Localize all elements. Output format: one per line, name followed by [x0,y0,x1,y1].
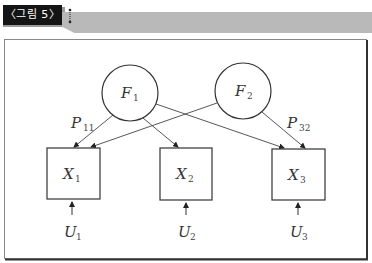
svg-text:2: 2 [247,91,253,101]
svg-text:F: F [234,82,246,100]
svg-text:P: P [70,114,82,132]
svg-text:3: 3 [302,232,308,242]
observed-x3: X 3 [272,149,325,200]
path-diagram: F 1 F 2 P 11 P 32 X 1 X 2 X 3 U 1 [0,0,372,263]
svg-text:2: 2 [188,174,194,184]
svg-text:X: X [287,166,300,184]
svg-text:F: F [120,84,132,102]
svg-text:X: X [175,165,188,183]
svg-text:1: 1 [76,232,82,242]
svg-text:32: 32 [299,123,310,133]
svg-text:1: 1 [133,93,139,103]
svg-text:1: 1 [75,174,81,184]
observed-x1: X 1 [47,148,100,199]
svg-text:X: X [62,165,75,183]
observed-x2: X 2 [160,148,212,200]
header-dot-marker [69,9,72,24]
factor-f2: F 2 [215,63,271,119]
svg-text:2: 2 [190,232,196,242]
svg-text:P: P [286,114,298,132]
svg-text:3: 3 [300,175,306,185]
factor-f1: F 1 [102,65,158,121]
svg-text:11: 11 [83,123,94,133]
